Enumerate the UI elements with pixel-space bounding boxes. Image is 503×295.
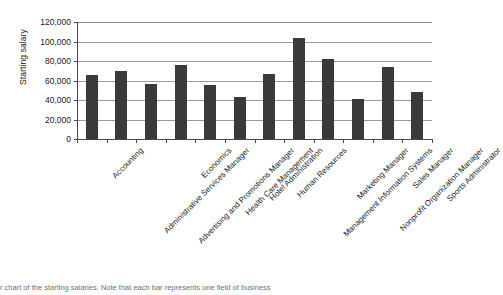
bar [382,67,394,139]
x-tick-mark [136,139,137,143]
x-tick-mark [343,139,344,143]
x-tick-mark [225,139,226,143]
bars-group [77,22,432,139]
y-tick-mark [74,120,78,121]
x-tick-mark [284,139,285,143]
x-category-label: Accounting [110,146,144,180]
y-axis-tick-labels: 120,000100,00080,00060,00040,00020,0000 [24,22,71,139]
y-tick-label: 60,000 [24,76,71,85]
y-tick-mark [74,81,78,82]
bar [263,74,275,139]
y-tick-label: 20,000 [24,115,71,124]
x-tick-mark [402,139,403,143]
bar [204,85,216,139]
y-tick-label: 80,000 [24,57,71,66]
bar [234,97,246,139]
x-tick-mark [255,139,256,143]
y-tick-label: 0 [24,135,71,144]
bar [115,71,127,139]
bar [145,84,157,139]
x-category-label: Administrative Services Manager [163,146,252,235]
x-tick-mark [195,139,196,143]
y-tick-mark [74,22,78,23]
x-tick-mark [432,139,433,143]
plot-area [77,22,432,139]
y-tick-mark [74,100,78,101]
x-tick-mark [166,139,167,143]
bar [175,65,187,139]
figure-caption: r chart of the starting salaries. Note t… [0,283,448,293]
bar [86,75,98,139]
y-tick-label: 40,000 [24,96,71,105]
y-tick-mark [74,42,78,43]
y-tick-label: 120,000 [24,18,71,27]
bar [322,59,334,139]
x-tick-mark [373,139,374,143]
x-axis-category-labels: AccountingAdministrative Services Manage… [0,144,448,269]
bar [352,99,364,139]
y-tick-label: 100,000 [24,37,71,46]
x-tick-mark [107,139,108,143]
bar [411,92,423,139]
x-tick-mark [314,139,315,143]
x-category-label: Management Information Systems [342,146,435,239]
bar [293,38,305,139]
y-tick-mark [74,61,78,62]
x-tick-mark [77,139,78,143]
